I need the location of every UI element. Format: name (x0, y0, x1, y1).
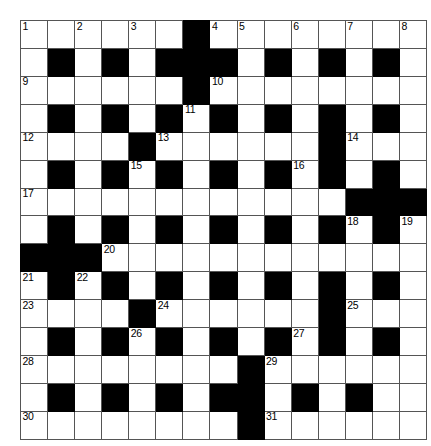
crossword-cell[interactable] (21, 48, 48, 76)
crossword-cell[interactable] (291, 300, 318, 328)
crossword-cell[interactable] (345, 244, 372, 272)
crossword-cell[interactable] (237, 328, 264, 356)
crossword-cell[interactable] (291, 132, 318, 160)
crossword-cell[interactable] (210, 300, 237, 328)
crossword-cell[interactable] (318, 383, 345, 411)
crossword-cell[interactable] (75, 216, 102, 244)
crossword-cell[interactable] (372, 21, 399, 49)
crossword-cell[interactable] (345, 48, 372, 76)
crossword-cell[interactable] (210, 188, 237, 216)
crossword-cell[interactable]: 2 (75, 21, 102, 49)
crossword-cell[interactable]: 22 (75, 272, 102, 300)
crossword-cell[interactable] (399, 76, 426, 104)
crossword-cell[interactable] (75, 383, 102, 411)
crossword-cell[interactable]: 26 (129, 328, 156, 356)
crossword-cell[interactable] (210, 132, 237, 160)
crossword-cell[interactable] (264, 300, 291, 328)
crossword-cell[interactable] (210, 356, 237, 384)
crossword-cell[interactable] (129, 76, 156, 104)
crossword-cell[interactable] (291, 216, 318, 244)
crossword-cell[interactable] (372, 132, 399, 160)
crossword-cell[interactable] (399, 328, 426, 356)
crossword-cell[interactable]: 8 (399, 21, 426, 49)
crossword-cell[interactable] (399, 48, 426, 76)
crossword-cell[interactable] (399, 300, 426, 328)
crossword-cell[interactable] (156, 411, 183, 439)
crossword-cell[interactable]: 9 (21, 76, 48, 104)
crossword-cell[interactable] (129, 411, 156, 439)
crossword-cell[interactable]: 25 (345, 300, 372, 328)
crossword-cell[interactable] (318, 244, 345, 272)
crossword-cell[interactable] (183, 132, 210, 160)
crossword-cell[interactable] (48, 21, 75, 49)
crossword-cell[interactable] (399, 356, 426, 384)
crossword-cell[interactable]: 29 (264, 356, 291, 384)
crossword-cell[interactable] (345, 76, 372, 104)
crossword-cell[interactable] (291, 244, 318, 272)
crossword-cell[interactable] (75, 328, 102, 356)
crossword-cell[interactable] (129, 48, 156, 76)
crossword-cell[interactable] (183, 356, 210, 384)
crossword-cell[interactable]: 15 (129, 160, 156, 188)
crossword-cell[interactable] (264, 132, 291, 160)
crossword-cell[interactable] (156, 244, 183, 272)
crossword-grid[interactable]: 1234567891011121314151617181920212223242… (20, 20, 427, 440)
crossword-cell[interactable] (345, 328, 372, 356)
crossword-cell[interactable] (129, 216, 156, 244)
crossword-cell[interactable] (372, 411, 399, 439)
crossword-cell[interactable]: 13 (156, 132, 183, 160)
crossword-cell[interactable]: 12 (21, 132, 48, 160)
crossword-cell[interactable] (75, 132, 102, 160)
crossword-cell[interactable] (129, 272, 156, 300)
crossword-cell[interactable] (264, 21, 291, 49)
crossword-cell[interactable] (237, 272, 264, 300)
crossword-cell[interactable] (399, 244, 426, 272)
crossword-cell[interactable] (399, 132, 426, 160)
crossword-cell[interactable] (129, 356, 156, 384)
crossword-cell[interactable] (264, 188, 291, 216)
crossword-cell[interactable]: 7 (345, 21, 372, 49)
crossword-cell[interactable]: 21 (21, 272, 48, 300)
crossword-cell[interactable]: 23 (21, 300, 48, 328)
crossword-cell[interactable] (264, 244, 291, 272)
crossword-cell[interactable] (372, 383, 399, 411)
crossword-cell[interactable]: 31 (264, 411, 291, 439)
crossword-cell[interactable] (264, 76, 291, 104)
crossword-cell[interactable] (48, 76, 75, 104)
crossword-cell[interactable]: 20 (102, 244, 129, 272)
crossword-cell[interactable] (102, 21, 129, 49)
crossword-cell[interactable] (399, 383, 426, 411)
crossword-cell[interactable] (210, 411, 237, 439)
crossword-cell[interactable] (291, 104, 318, 132)
crossword-cell[interactable] (75, 411, 102, 439)
crossword-cell[interactable] (372, 244, 399, 272)
crossword-cell[interactable] (237, 48, 264, 76)
crossword-cell[interactable] (75, 160, 102, 188)
crossword-cell[interactable] (264, 383, 291, 411)
crossword-cell[interactable]: 1 (21, 21, 48, 49)
crossword-cell[interactable] (102, 356, 129, 384)
crossword-cell[interactable]: 6 (291, 21, 318, 49)
crossword-cell[interactable] (291, 76, 318, 104)
crossword-cell[interactable] (75, 76, 102, 104)
crossword-cell[interactable] (75, 48, 102, 76)
crossword-cell[interactable] (237, 300, 264, 328)
crossword-cell[interactable] (318, 356, 345, 384)
crossword-cell[interactable]: 14 (345, 132, 372, 160)
crossword-cell[interactable] (129, 188, 156, 216)
crossword-cell[interactable] (345, 411, 372, 439)
crossword-cell[interactable] (156, 188, 183, 216)
crossword-cell[interactable] (75, 104, 102, 132)
crossword-cell[interactable] (237, 188, 264, 216)
crossword-cell[interactable] (183, 300, 210, 328)
crossword-cell[interactable] (183, 328, 210, 356)
crossword-cell[interactable] (129, 104, 156, 132)
crossword-cell[interactable] (237, 76, 264, 104)
crossword-cell[interactable] (21, 216, 48, 244)
crossword-cell[interactable] (183, 411, 210, 439)
crossword-cell[interactable] (345, 272, 372, 300)
crossword-cell[interactable] (129, 383, 156, 411)
crossword-cell[interactable] (291, 411, 318, 439)
crossword-cell[interactable]: 10 (210, 76, 237, 104)
crossword-cell[interactable] (102, 411, 129, 439)
